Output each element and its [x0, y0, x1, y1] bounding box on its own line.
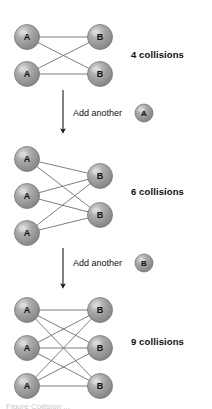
node-stage-1-left-0: A — [15, 25, 40, 50]
edge-stage-2-a1-b0 — [38, 179, 90, 193]
collision-diagram-figure: AABBAAABBAAABBB AB 4 collisions 6 collis… — [0, 0, 212, 409]
collisions-label-stage-1: 4 collisions — [131, 49, 184, 60]
node-stage-2-left-1-letter: A — [24, 191, 31, 201]
node-stage-2-left-1: A — [15, 184, 40, 209]
add-another-label-2: Add another — [73, 258, 122, 268]
node-stage-2-left-0-letter: A — [24, 154, 31, 164]
diagram-canvas: AABBAAABBAAABBB AB — [0, 0, 212, 409]
new-node-transition-1: A — [135, 104, 153, 122]
node-stage-3-left-1: A — [15, 336, 40, 361]
node-stage-2-right-1-letter: B — [97, 210, 104, 220]
add-another-label-1: Add another — [73, 108, 122, 118]
node-stage-3-right-1-letter: B — [97, 343, 104, 353]
edge-stage-2-a2-b1 — [38, 218, 90, 231]
edge-stage-2-a2-b0 — [36, 183, 92, 226]
collisions-label-stage-2: 6 collisions — [131, 186, 184, 197]
edge-stage-2-a0-b0 — [38, 161, 90, 173]
node-stage-1-right-1-letter: B — [97, 69, 104, 79]
new-node-transition-2: B — [135, 254, 153, 272]
node-stage-3-right-1: B — [88, 336, 113, 361]
node-stage-2-left-2: A — [15, 221, 40, 246]
new-node-transition-1-letter: A — [141, 109, 147, 118]
node-stage-1-right-0: B — [88, 25, 113, 50]
node-stage-1-left-1-letter: A — [24, 69, 31, 79]
node-stage-3-left-2: A — [15, 374, 40, 399]
node-stage-2-left-0: A — [15, 147, 40, 172]
node-stage-3-right-0-letter: B — [97, 305, 104, 315]
collisions-label-stage-3: 9 collisions — [131, 336, 184, 347]
node-stage-1-left-0-letter: A — [24, 32, 31, 42]
node-stage-2-right-0: B — [88, 164, 113, 189]
node-stage-1-right-0-letter: B — [97, 32, 104, 42]
node-stage-3-right-2: B — [88, 374, 113, 399]
node-stage-3-left-1-letter: A — [24, 343, 31, 353]
node-stage-2-left-2-letter: A — [24, 228, 31, 238]
figure-caption-partial: Figure Collision ... — [6, 402, 206, 409]
node-stage-1-left-1: A — [15, 62, 40, 87]
new-node-transition-2-letter: B — [141, 259, 147, 268]
nodes-layer: AABBAAABBAAABBB — [15, 25, 113, 399]
edges-layer — [35, 37, 93, 386]
node-stage-3-left-2-letter: A — [24, 381, 31, 391]
node-stage-2-right-1: B — [88, 203, 113, 228]
node-stage-3-right-0: B — [88, 298, 113, 323]
node-stage-3-left-0: A — [15, 298, 40, 323]
node-stage-3-right-2-letter: B — [97, 381, 104, 391]
node-stage-2-right-0-letter: B — [97, 171, 104, 181]
node-stage-1-right-1: B — [88, 62, 113, 87]
node-stage-3-left-0-letter: A — [24, 305, 31, 315]
